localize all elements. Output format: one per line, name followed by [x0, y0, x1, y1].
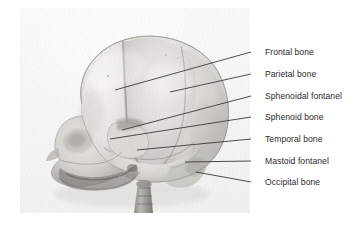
label-sphenoidal-fontanel: Sphenoidal fontanel	[265, 92, 342, 101]
label-temporal-bone: Temporal bone	[265, 135, 323, 144]
label-sphenoid-bone: Sphenoid bone	[265, 113, 323, 122]
label-mastoid-fontanel: Mastoid fontanel	[265, 157, 329, 166]
label-frontal-bone: Frontal bone	[265, 48, 314, 57]
skull-specimen-illustration	[20, 8, 250, 213]
label-parietal-bone: Parietal bone	[265, 70, 316, 79]
figure-root: Frontal boneParietal boneSphenoidal font…	[0, 0, 363, 234]
skull-photograph	[20, 8, 250, 213]
label-occipital-bone: Occipital bone	[265, 178, 320, 187]
